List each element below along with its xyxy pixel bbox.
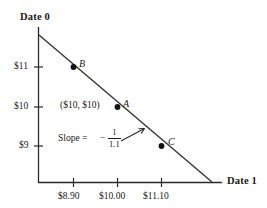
x-tick-label-8-90: $8.90 [58,192,79,202]
slope-arrow [121,129,145,142]
y-tick-label-9: $9 [19,141,29,151]
slope-denominator: 1.1 [108,139,121,148]
slope-minus-sign: − [100,134,105,144]
data-point-b [71,64,77,70]
x-tick-label-11-10: $11.10 [143,192,169,202]
point-label-a: A [123,99,129,109]
y-tick-label-10: $10 [14,102,28,112]
y-tick-label-11: $11 [14,62,28,72]
data-point-a [115,104,121,110]
data-point-c [159,143,165,149]
budget-line-figure: Date 0 Date 1 $11 $10 $9 $8.90 $10.00 $1… [0,0,267,208]
x-axis-title: Date 1 [227,176,257,187]
y-axis-title: Date 0 [20,12,50,23]
point-label-c: C [168,137,175,147]
slope-numerator: 1 [108,128,121,137]
slope-annotation-text: Slope = [58,134,87,144]
x-tick-label-10-00: $10.00 [99,192,125,202]
coordinate-annotation: ($10, $10) [60,101,100,111]
point-label-b: B [79,59,85,69]
slope-fraction: 1 1.1 [108,128,121,149]
